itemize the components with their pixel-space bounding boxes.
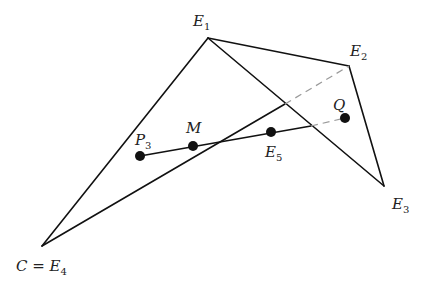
label-e1: E1 (192, 12, 210, 32)
label-p3: P3 (134, 131, 151, 151)
point-p3 (135, 151, 145, 161)
label-m: M (185, 119, 202, 137)
edge-e1-e4 (42, 38, 208, 246)
label-q: Q (333, 96, 345, 114)
point-q (340, 113, 350, 123)
edge-e2-e3 (349, 66, 384, 186)
label-e4: C = E4 (16, 257, 67, 277)
label-e2: E2 (349, 42, 367, 62)
edge-e1-e2 (208, 38, 349, 66)
label-e5: E5 (264, 143, 282, 163)
edge-e4-to-crossing (42, 104, 285, 246)
edge-e1-e3 (208, 38, 384, 186)
dashed-crossing-to-q (311, 118, 345, 126)
segment-p3-to-crossing (140, 126, 311, 156)
diagram-canvas: E1 E2 E3 C = E4 P3 M E5 Q (0, 0, 426, 283)
label-e3: E3 (391, 195, 409, 215)
point-e5 (266, 127, 276, 137)
point-m (188, 141, 198, 151)
